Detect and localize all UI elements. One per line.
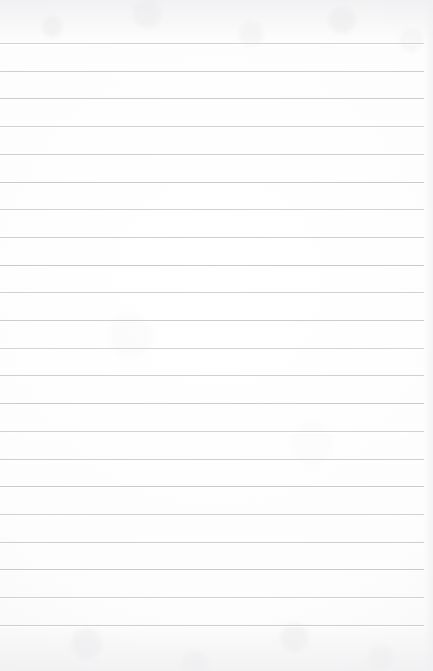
writing-area[interactable] <box>0 43 424 625</box>
notebook-page <box>0 0 433 671</box>
